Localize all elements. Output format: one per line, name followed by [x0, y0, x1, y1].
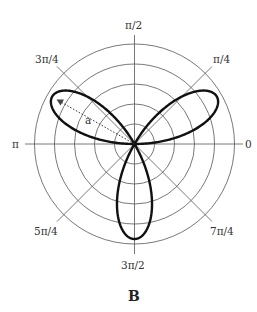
label-pi-4: π/4	[213, 53, 230, 65]
label-3pi-4: 3π/4	[35, 53, 59, 65]
label-0: 0	[245, 138, 252, 150]
label-5pi-4: 5π/4	[34, 225, 58, 237]
label-7pi-4: 7π/4	[210, 225, 234, 237]
arrowhead-icon	[57, 100, 65, 106]
polar-rose-diagram: a 0 π/4 π/2 3π/4 π 5π/4 3π/2 7π/4 B	[0, 0, 257, 312]
label-3pi-2: 3π/2	[121, 259, 145, 271]
label-pi: π	[12, 138, 19, 150]
amplitude-dotted-line	[60, 102, 135, 145]
amplitude-label: a	[85, 114, 91, 126]
label-pi-2: π/2	[125, 19, 142, 31]
figure-caption: B	[128, 288, 140, 304]
